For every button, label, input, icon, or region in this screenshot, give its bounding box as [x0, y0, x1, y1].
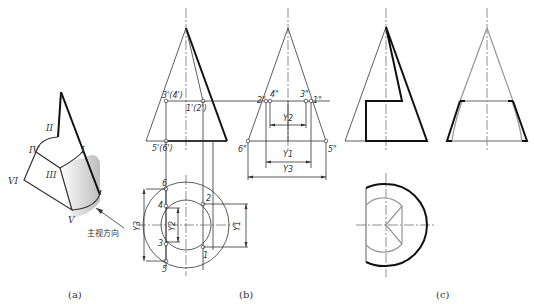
label-3-side: 3" [300, 90, 309, 99]
three-view-drawing: II IV I VI III V 主视方向 3'(4') 1'(2') 5'(6… [0, 0, 534, 304]
label-2-side: 2" [257, 96, 266, 105]
view-direction-label: 主视方向 [87, 228, 119, 238]
label-3-top: 3 [158, 239, 163, 248]
label-I: I [80, 145, 85, 155]
label-II: II [45, 123, 54, 133]
label-6-top: 6 [162, 179, 167, 188]
label-1-side: 1" [313, 96, 322, 105]
panel-c-front-view [345, 8, 427, 150]
label-1-top: 1 [203, 251, 208, 260]
dim-y3-side: Y3 [283, 165, 293, 174]
label-5-6-front: 5'(6') [152, 144, 173, 153]
label-3-4-front: 3'(4') [162, 91, 183, 100]
dim-y3-top: Y3 [133, 221, 142, 231]
label-IV: IV [28, 145, 41, 155]
label-III: III [45, 170, 57, 180]
panel-c-side-view [447, 8, 527, 150]
label-5-side: 5" [328, 145, 337, 154]
dim-y2-side: Y2 [283, 114, 293, 123]
arrow-head-icon [96, 208, 103, 214]
dim-y2-top: Y2 [168, 221, 177, 231]
panel-b-top-view: 6 4 3 5 2 1 Y3 Y2 Y1 [133, 175, 248, 276]
label-1-2-front: 1'(2') [186, 104, 207, 113]
label-6-side: 6" [238, 145, 247, 154]
label-4-top: 4 [158, 201, 163, 210]
caption-a: (a) [68, 289, 82, 300]
dim-y1-side: Y1 [283, 150, 293, 159]
caption-c: (c) [436, 289, 450, 300]
label-VI: VI [8, 176, 18, 186]
label-5-top: 5 [162, 265, 167, 274]
panel-c-top-view [356, 173, 436, 277]
label-2-top: 2 [206, 194, 211, 203]
panel-b-side-view: 2" 4" 3" 1" 6" 5" Y2 Y1 Y3 [238, 8, 337, 180]
caption-b: (b) [239, 289, 253, 300]
label-4-side: 4" [270, 90, 279, 99]
dim-y1-top: Y1 [233, 221, 242, 231]
panel-a-pictorial: II IV I VI III V 主视方向 [8, 92, 124, 238]
